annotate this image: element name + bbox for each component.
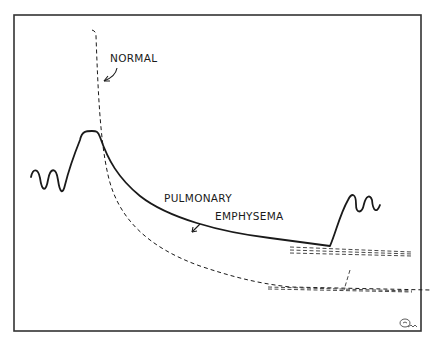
normal-curve [92,30,430,290]
diagram-svg [0,0,435,344]
frame-border [14,15,421,331]
emphysema-label-line1: PULMONARY [164,193,232,204]
normal-label-arrow [104,68,117,81]
emphysema-label-arrow [192,224,200,232]
diagram-canvas: NORMAL PULMONARY EMPHYSEMA [0,0,435,344]
emphysema-label-line2: EMPHYSEMA [215,211,284,222]
emphysema-curve [31,131,380,246]
emphysema-tail-dashes [290,247,412,256]
normal-label: NORMAL [110,53,157,64]
signature-mark [400,319,417,327]
